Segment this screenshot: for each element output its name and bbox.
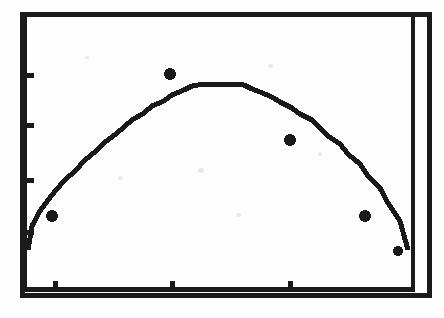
data-point <box>359 210 371 222</box>
y-axis-spine <box>22 16 27 292</box>
figure-root <box>0 0 444 318</box>
x-tick <box>170 281 175 288</box>
y-tick <box>27 123 34 128</box>
right-spine <box>411 16 415 292</box>
data-point <box>164 68 176 80</box>
x-tick <box>53 281 58 288</box>
data-point <box>284 134 296 146</box>
x-axis-spine <box>22 287 414 292</box>
plot-canvas <box>0 0 444 318</box>
figure-background <box>0 0 444 318</box>
data-point <box>393 246 403 256</box>
y-tick <box>27 178 34 183</box>
y-tick <box>27 73 34 78</box>
x-tick <box>288 281 293 288</box>
data-point <box>46 210 58 222</box>
